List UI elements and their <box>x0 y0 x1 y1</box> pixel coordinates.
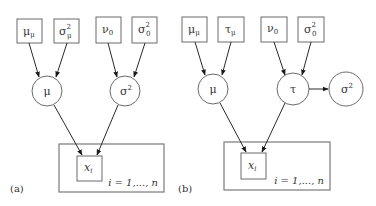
svg-text:σ20: σ20 <box>304 21 316 38</box>
node-xi-b: xi <box>241 153 266 179</box>
node-mu-mu-b: μμ <box>182 17 207 42</box>
svg-text:σ20: σ20 <box>138 21 150 38</box>
node-tau-mu-b: τμ <box>218 17 244 42</box>
node-mu-b: μ <box>198 74 228 104</box>
edge-mu-xi-a <box>54 105 82 155</box>
edge-nu0-sigma2-a <box>108 43 117 77</box>
node-sigma2-0-b: σ20 <box>298 17 324 42</box>
node-sigma2-a: σ2 <box>110 76 140 106</box>
edge-nu0-tau-b <box>274 42 285 75</box>
panel-a: μμ σ2μ ν0 σ20 μ σ2 <box>10 17 164 194</box>
node-nu0-b: ν0 <box>261 17 287 42</box>
edge-taumu-mu-b <box>222 42 231 75</box>
node-nu0-a: ν0 <box>96 17 121 43</box>
panel-label-a: (a) <box>10 183 24 194</box>
panel-label-b: (b) <box>178 183 192 194</box>
bayesian-network-diagram: μμ σ2μ ν0 σ20 μ σ2 <box>0 0 376 206</box>
node-mu-a: μ <box>32 76 62 106</box>
node-mu-mu-a: μμ <box>17 19 42 43</box>
svg-text:μ: μ <box>43 85 50 98</box>
node-sigma2-0-a: σ20 <box>132 17 157 43</box>
edge-mumu-mu-b <box>195 42 205 75</box>
edge-sigma20-sigma2-a <box>134 43 145 77</box>
edge-tau-xi-b <box>262 103 285 152</box>
plate-label-b: i = 1,..., n <box>274 175 324 186</box>
svg-text:τ: τ <box>290 83 296 96</box>
node-sigma2-mu-a: σ2μ <box>54 19 79 43</box>
edge-sigma2mu-mu-a <box>56 43 67 77</box>
panel-b: μμ τμ ν0 σ20 μ τ σ2 <box>178 17 363 194</box>
node-xi-a: xi <box>77 156 102 181</box>
plate-label-a: i = 1,..., n <box>108 177 158 188</box>
node-tau-b: τ <box>277 73 309 105</box>
edge-sigma20-tau-b <box>302 42 311 75</box>
node-sigma2-b: σ2 <box>329 72 363 106</box>
edge-mumu-mu-a <box>29 43 39 77</box>
edge-sigma2-xi-a <box>97 105 118 155</box>
svg-text:μ: μ <box>209 83 216 96</box>
svg-text:σ2μ: σ2μ <box>59 23 72 40</box>
